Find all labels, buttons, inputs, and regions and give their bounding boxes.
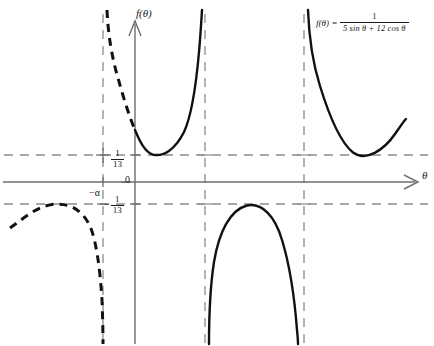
y-tick-label-positive-one-thirteenth: 1 13 <box>110 146 124 169</box>
fraction-denominator: 13 <box>111 160 124 169</box>
equation-numerator: 1 <box>340 12 409 23</box>
plot-canvas <box>0 0 434 346</box>
curve-branch-upper-dashed <box>107 10 135 130</box>
fraction-numerator: 1 <box>111 195 124 205</box>
equation-fraction: 1 5 sin θ + 12 cos θ <box>340 12 409 34</box>
fraction-one-over-thirteen: 1 13 <box>111 149 124 169</box>
curve-branch-middle-lower-solid <box>209 205 298 344</box>
positive-fraction-group: 1 13 <box>110 149 124 169</box>
fraction-denominator: 13 <box>111 206 124 215</box>
x-tick-label-negative-alpha: −α <box>89 188 100 198</box>
equation-left-hand-side: f(θ) <box>316 18 329 28</box>
fraction-numerator: 1 <box>111 149 124 159</box>
curve-branch-upper-solid <box>135 10 202 155</box>
equation-denominator: 5 sin θ + 12 cos θ <box>340 23 409 34</box>
minus-sign: − <box>104 200 110 210</box>
fraction-one-over-thirteen: 1 13 <box>111 195 124 215</box>
y-axis-label: f(θ) <box>136 8 152 19</box>
origin-label: 0 <box>125 175 130 185</box>
x-axis-label: θ <box>422 170 427 181</box>
equation-equals-sign: = <box>332 18 337 28</box>
function-graph-figure: f(θ) θ 0 −α 1 13 − 1 13 f(θ) = 1 5 sin θ… <box>0 0 434 346</box>
curve-branch-left-lower-dashed <box>10 204 103 344</box>
negative-fraction-group: − 1 13 <box>104 195 124 215</box>
function-equation-annotation: f(θ) = 1 5 sin θ + 12 cos θ <box>316 12 409 34</box>
y-tick-label-negative-one-thirteenth: − 1 13 <box>104 195 124 215</box>
